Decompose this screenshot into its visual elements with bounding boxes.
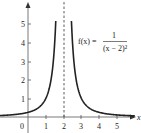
- x-axis-label: x: [136, 113, 141, 122]
- y-tick-label: 1: [21, 95, 25, 104]
- y-tick-label: 3: [21, 58, 25, 67]
- x-tick-label: 1: [44, 122, 48, 131]
- origin-label: 0: [20, 122, 24, 131]
- y-tick-labels: 1 2 3 4 5: [21, 20, 25, 104]
- formula-lhs: f(x) =: [78, 37, 97, 46]
- x-tick-label: 3: [79, 122, 83, 131]
- function-formula: f(x) = 1 (x − 2)²: [78, 31, 128, 53]
- formula-denominator: (x − 2)²: [103, 44, 128, 53]
- y-tick-label: 2: [21, 76, 25, 85]
- y-tick-label: 5: [21, 20, 25, 29]
- formula-numerator: 1: [112, 31, 116, 40]
- x-tick-labels: 0 1 2 3 4 5: [20, 122, 119, 131]
- y-tick-label: 4: [21, 39, 25, 48]
- y-axis-arrow-icon: [26, 2, 31, 8]
- function-graph: x 0 1 2 3 4 5 1 2 3 4 5 f(x) = 1: [0, 0, 141, 133]
- y-ticks: [28, 24, 31, 99]
- x-tick-label: 4: [97, 122, 101, 131]
- curve-right-branch: [71, 21, 134, 116]
- x-tick-label: 2: [62, 122, 66, 131]
- x-tick-label: 5: [115, 122, 119, 131]
